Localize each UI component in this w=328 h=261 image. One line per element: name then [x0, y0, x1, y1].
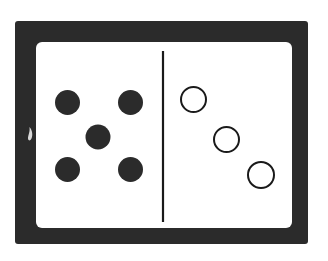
filled-dot-bottom-right [118, 157, 143, 182]
filled-dot-top-left [55, 90, 80, 115]
open-circle-lower [248, 162, 274, 188]
dark-border-frame [15, 21, 308, 244]
open-circle-middle [214, 127, 239, 152]
diagram-svg [0, 0, 328, 261]
open-circle-upper [181, 87, 206, 112]
figure-stage: Comparison of filled and open circle gro… [0, 0, 328, 261]
filled-dot-center [86, 125, 111, 150]
filled-dot-top-right [118, 90, 143, 115]
filled-dot-bottom-left [55, 157, 80, 182]
